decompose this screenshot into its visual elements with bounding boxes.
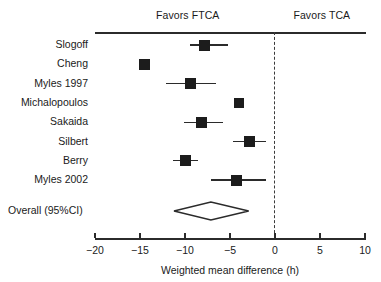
favors-left-header: Favors FTCA — [156, 9, 220, 21]
study-estimate-marker — [139, 59, 150, 70]
study-estimate-marker — [234, 98, 244, 108]
forest-plot: Favors FTCA Favors TCA SlogoffChengMyles… — [0, 0, 381, 282]
x-axis-tick — [319, 233, 321, 238]
x-axis-line — [95, 238, 366, 240]
x-axis-tick — [364, 233, 366, 238]
x-axis-tick — [274, 233, 276, 238]
study-label: Silbert — [58, 135, 88, 147]
x-axis-tick-label: −10 — [176, 244, 194, 256]
x-axis-tick-label: −15 — [131, 244, 149, 256]
x-axis-tick-label: 0 — [272, 244, 278, 256]
study-label: Myles 1997 — [34, 77, 88, 89]
x-axis-tick — [139, 233, 141, 238]
overall-diamond-marker — [172, 200, 251, 222]
x-axis-tick-label: 10 — [359, 244, 371, 256]
x-axis-tick — [229, 233, 231, 238]
study-estimate-marker — [199, 40, 210, 51]
top-rule — [95, 32, 366, 34]
study-label: Slogoff — [56, 38, 89, 50]
study-label: Sakaida — [50, 115, 88, 127]
study-estimate-marker — [185, 78, 196, 89]
study-estimate-marker — [231, 175, 242, 186]
overall-label: Overall (95%CI) — [8, 204, 83, 216]
x-axis-tick-label: −5 — [224, 244, 236, 256]
study-estimate-marker — [244, 136, 255, 147]
study-label: Cheng — [57, 57, 88, 69]
study-estimate-marker — [196, 117, 207, 128]
study-estimate-marker — [180, 155, 191, 166]
study-label: Myles 2002 — [34, 173, 88, 185]
study-label: Berry — [63, 154, 88, 166]
x-axis-tick-label: 5 — [317, 244, 323, 256]
x-axis-tick-label: −20 — [86, 244, 104, 256]
x-axis-tick — [94, 233, 96, 238]
reference-line — [274, 32, 275, 238]
study-label: Michalopoulos — [21, 96, 88, 108]
x-axis-tick — [184, 233, 186, 238]
favors-right-header: Favors TCA — [293, 9, 350, 21]
x-axis-label: Weighted mean difference (h) — [161, 264, 299, 276]
